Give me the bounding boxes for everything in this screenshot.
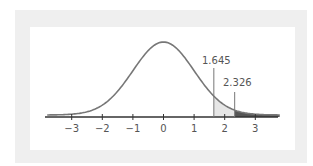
x-tick-label: −3 [64, 123, 79, 134]
x-tick-label: 1 [191, 123, 197, 134]
x-tick-label: 3 [252, 123, 258, 134]
normal-distribution-chart: −3−2−10123 1.645 2.326 [0, 0, 313, 166]
critical-label-2326: 2.326 [223, 77, 252, 88]
x-tick-label: −1 [126, 123, 141, 134]
x-tick-label: 0 [160, 123, 166, 134]
critical-label-1645: 1.645 [202, 55, 231, 66]
x-tick-label: 2 [222, 123, 228, 134]
x-tick-label: −2 [95, 123, 110, 134]
